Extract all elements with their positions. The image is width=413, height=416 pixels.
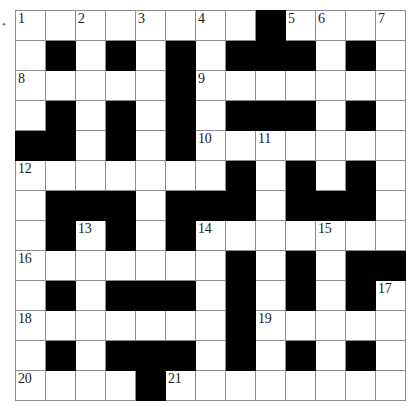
crossword-cell[interactable] <box>376 41 406 71</box>
crossword-cell[interactable] <box>376 101 406 131</box>
crossword-cell[interactable]: 11 <box>256 131 286 161</box>
crossword-cell[interactable] <box>196 341 226 371</box>
crossword-cell[interactable] <box>76 71 106 101</box>
crossword-cell[interactable] <box>316 71 346 101</box>
crossword-cell[interactable] <box>76 131 106 161</box>
crossword-cell[interactable]: 4 <box>196 11 226 41</box>
crossword-cell[interactable] <box>196 101 226 131</box>
crossword-cell[interactable] <box>256 191 286 221</box>
crossword-cell[interactable] <box>46 11 76 41</box>
crossword-cell[interactable] <box>256 341 286 371</box>
crossword-cell[interactable] <box>286 371 316 401</box>
crossword-cell[interactable] <box>76 311 106 341</box>
crossword-cell[interactable] <box>76 371 106 401</box>
crossword-cell[interactable] <box>256 281 286 311</box>
crossword-cell[interactable] <box>346 131 376 161</box>
crossword-cell[interactable]: 17 <box>376 281 406 311</box>
crossword-cell[interactable] <box>16 41 46 71</box>
crossword-cell[interactable] <box>226 221 256 251</box>
crossword-cell[interactable] <box>136 161 166 191</box>
crossword-cell[interactable] <box>106 371 136 401</box>
crossword-cell[interactable] <box>136 221 166 251</box>
crossword-cell[interactable]: 19 <box>256 311 286 341</box>
crossword-cell[interactable] <box>16 221 46 251</box>
crossword-cell[interactable]: 5 <box>286 11 316 41</box>
crossword-cell[interactable] <box>346 71 376 101</box>
crossword-cell[interactable] <box>316 251 346 281</box>
crossword-cell[interactable]: 12 <box>16 161 46 191</box>
crossword-cell[interactable] <box>46 371 76 401</box>
crossword-cell[interactable]: 18 <box>16 311 46 341</box>
crossword-cell[interactable] <box>286 311 316 341</box>
crossword-cell[interactable] <box>166 11 196 41</box>
crossword-cell[interactable] <box>46 251 76 281</box>
crossword-cell[interactable] <box>316 101 346 131</box>
crossword-cell[interactable] <box>106 251 136 281</box>
crossword-cell[interactable] <box>136 251 166 281</box>
crossword-cell[interactable] <box>106 161 136 191</box>
crossword-cell[interactable]: 15 <box>316 221 346 251</box>
crossword-cell[interactable] <box>136 41 166 71</box>
crossword-cell[interactable]: 13 <box>76 221 106 251</box>
crossword-cell[interactable]: 8 <box>16 71 46 101</box>
crossword-cell[interactable] <box>376 311 406 341</box>
crossword-cell[interactable] <box>226 131 256 161</box>
crossword-cell[interactable] <box>196 251 226 281</box>
crossword-cell[interactable] <box>106 311 136 341</box>
crossword-cell[interactable] <box>376 341 406 371</box>
crossword-cell[interactable] <box>136 311 166 341</box>
crossword-cell[interactable] <box>376 371 406 401</box>
crossword-cell[interactable] <box>376 221 406 251</box>
crossword-cell[interactable] <box>316 161 346 191</box>
crossword-cell[interactable] <box>286 221 316 251</box>
crossword-cell[interactable] <box>286 71 316 101</box>
crossword-cell[interactable] <box>376 191 406 221</box>
crossword-cell[interactable] <box>376 161 406 191</box>
crossword-cell[interactable] <box>316 41 346 71</box>
crossword-cell[interactable] <box>76 341 106 371</box>
crossword-cell[interactable] <box>196 311 226 341</box>
crossword-cell[interactable] <box>196 161 226 191</box>
crossword-cell[interactable] <box>226 71 256 101</box>
crossword-cell[interactable] <box>256 221 286 251</box>
crossword-cell[interactable]: 1 <box>16 11 46 41</box>
crossword-cell[interactable] <box>196 41 226 71</box>
crossword-cell[interactable] <box>46 71 76 101</box>
crossword-cell[interactable] <box>166 311 196 341</box>
crossword-cell[interactable]: 21 <box>166 371 196 401</box>
crossword-cell[interactable] <box>76 251 106 281</box>
crossword-cell[interactable] <box>346 371 376 401</box>
crossword-cell[interactable] <box>316 281 346 311</box>
crossword-cell[interactable]: 10 <box>196 131 226 161</box>
crossword-cell[interactable] <box>256 371 286 401</box>
crossword-cell[interactable] <box>16 101 46 131</box>
crossword-cell[interactable] <box>286 131 316 161</box>
crossword-cell[interactable]: 7 <box>376 11 406 41</box>
crossword-cell[interactable]: 9 <box>196 71 226 101</box>
crossword-cell[interactable] <box>76 161 106 191</box>
crossword-cell[interactable] <box>196 371 226 401</box>
crossword-cell[interactable] <box>316 341 346 371</box>
crossword-cell[interactable] <box>16 191 46 221</box>
crossword-cell[interactable]: 14 <box>196 221 226 251</box>
crossword-cell[interactable] <box>256 161 286 191</box>
crossword-cell[interactable]: 2 <box>76 11 106 41</box>
crossword-cell[interactable] <box>16 341 46 371</box>
crossword-cell[interactable] <box>226 11 256 41</box>
crossword-cell[interactable] <box>226 371 256 401</box>
crossword-cell[interactable] <box>136 101 166 131</box>
crossword-cell[interactable] <box>76 281 106 311</box>
crossword-cell[interactable]: 6 <box>316 11 346 41</box>
crossword-cell[interactable] <box>76 41 106 71</box>
crossword-cell[interactable] <box>256 251 286 281</box>
crossword-cell[interactable] <box>136 191 166 221</box>
crossword-cell[interactable] <box>376 131 406 161</box>
crossword-cell[interactable] <box>76 101 106 131</box>
crossword-cell[interactable]: 20 <box>16 371 46 401</box>
crossword-cell[interactable] <box>376 71 406 101</box>
crossword-cell[interactable] <box>16 281 46 311</box>
crossword-cell[interactable]: 16 <box>16 251 46 281</box>
crossword-cell[interactable] <box>46 161 76 191</box>
crossword-cell[interactable]: 3 <box>136 11 166 41</box>
crossword-cell[interactable] <box>316 311 346 341</box>
